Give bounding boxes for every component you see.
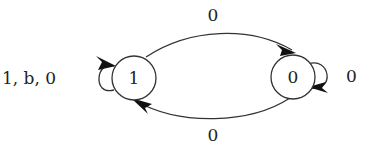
transition-label-s0-s0: 0 <box>346 66 357 86</box>
transition-label-s1-s0: 0 <box>208 5 219 25</box>
state-label-s0: 0 <box>288 67 299 87</box>
transition-edge-s0-s1 <box>136 98 290 119</box>
arrowhead-loop-s1 <box>96 56 116 70</box>
transition-label-s1-s1: 1, b, 0 <box>2 68 56 88</box>
diagram-svg: 1 0 1, b, 0 0 0 0 <box>0 0 371 150</box>
transition-label-s0-s1: 0 <box>208 125 219 145</box>
state-label-s1: 1 <box>129 68 140 88</box>
state-diagram: 1 0 1, b, 0 0 0 0 <box>0 0 371 150</box>
transition-edge-s1-s0 <box>146 33 292 57</box>
arrowhead-s1-s0 <box>276 44 296 56</box>
